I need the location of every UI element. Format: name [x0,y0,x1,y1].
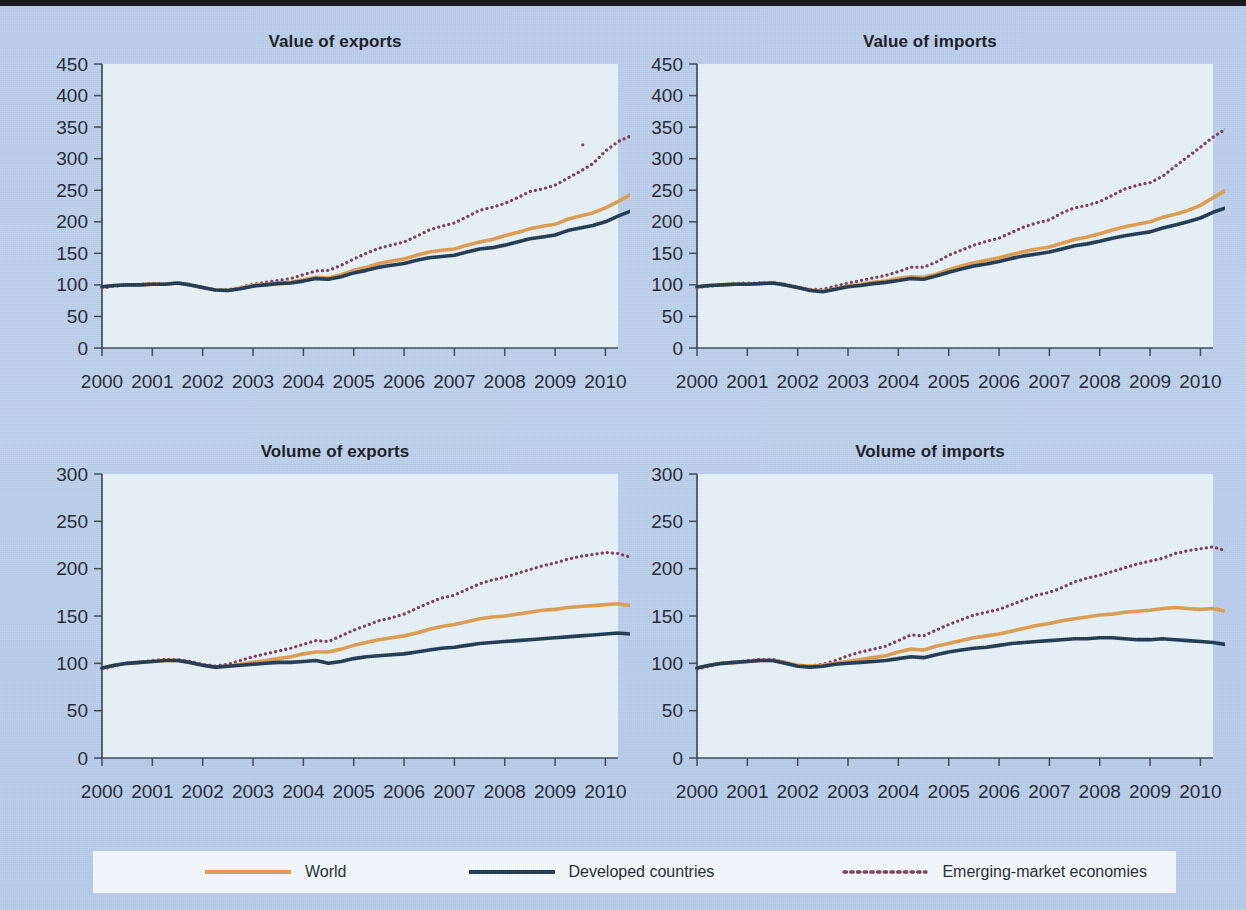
x-axis-tick-label: 2006 [978,371,1020,392]
y-axis-tick-label: 150 [651,243,683,264]
x-axis-tick-label: 2006 [978,781,1020,802]
y-axis-tick-label: 150 [651,606,683,627]
legend-label-emerging-market-economies: Emerging-market economies [942,863,1147,881]
y-axis-tick-label: 300 [651,148,683,169]
chart-plot-area: 0501001502002503003504004502000200120022… [635,54,1225,430]
y-axis-tick-label: 100 [56,653,88,674]
y-axis-tick-label: 300 [56,148,88,169]
x-axis-tick-label: 2010 [1179,781,1221,802]
y-axis-tick-label: 450 [56,54,88,75]
y-axis-tick-label: 400 [651,85,683,106]
chart-panel-value-of-exports: Value of exports 05010015020025030035040… [40,32,630,432]
x-axis-tick-label: 2004 [282,781,325,802]
x-axis-tick-label: 2000 [81,371,123,392]
y-axis-tick-label: 200 [56,558,88,579]
y-axis-tick-label: 250 [651,180,683,201]
chart-svg: 0501001502002503002000200120022003200420… [635,464,1225,836]
chart-plot-area: 0501001502002503003504004502000200120022… [40,54,630,430]
y-axis-tick-label: 0 [77,338,88,359]
y-axis-tick-label: 100 [56,274,88,295]
figure-container: Value of exports 05010015020025030035040… [0,0,1246,910]
chart-title: Volume of exports [40,442,630,462]
x-axis-tick-label: 2001 [131,371,173,392]
x-axis-tick-label: 2000 [676,371,718,392]
chart-title: Value of imports [635,32,1225,52]
y-axis-tick-label: 150 [56,243,88,264]
y-axis-tick-label: 0 [77,748,88,769]
chart-svg: 0501001502002503002000200120022003200420… [40,464,630,836]
x-axis-tick-label: 2008 [1079,781,1121,802]
plot-background [102,64,618,348]
x-axis-tick-label: 2001 [726,781,768,802]
chart-panel-volume-of-exports: Volume of exports 0501001502002503002000… [40,442,630,842]
x-axis-tick-label: 2005 [928,781,970,802]
y-axis-tick-label: 100 [651,653,683,674]
y-axis-tick-label: 100 [651,274,683,295]
y-axis-tick-label: 50 [662,700,683,721]
plot-background [697,64,1213,348]
chart-plot-area: 0501001502002503002000200120022003200420… [635,464,1225,840]
x-axis-tick-label: 2010 [584,781,626,802]
x-axis-tick-label: 2003 [827,781,869,802]
x-axis-tick-label: 2005 [928,371,970,392]
legend-item-emerging-market-economies: Emerging-market economies [842,863,1147,881]
x-axis-tick-label: 2007 [433,371,475,392]
y-axis-tick-label: 250 [651,511,683,532]
x-axis-tick-label: 2005 [333,781,375,802]
y-axis-tick-label: 300 [56,464,88,485]
y-axis-tick-label: 250 [56,511,88,532]
x-axis-tick-label: 2008 [1079,371,1121,392]
y-axis-tick-label: 200 [651,211,683,232]
legend-item-developed-countries: Developed countries [469,863,715,881]
chart-legend: World Developed countries Emerging-marke… [93,851,1176,893]
plot-background [697,474,1213,758]
x-axis-tick-label: 2009 [534,781,576,802]
y-axis-tick-label: 200 [651,558,683,579]
x-axis-tick-label: 2004 [282,371,325,392]
y-axis-tick-label: 350 [56,117,88,138]
x-axis-tick-label: 2010 [584,371,626,392]
x-axis-tick-label: 2005 [333,371,375,392]
y-axis-tick-label: 150 [56,606,88,627]
x-axis-tick-label: 2004 [877,371,920,392]
y-axis-tick-label: 350 [651,117,683,138]
y-axis-tick-label: 250 [56,180,88,201]
x-axis-tick-label: 2009 [1129,781,1171,802]
legend-label-developed-countries: Developed countries [569,863,715,881]
chart-panel-volume-of-imports: Volume of imports 0501001502002503002000… [635,442,1225,842]
chart-panel-value-of-imports: Value of imports 05010015020025030035040… [635,32,1225,432]
y-axis-tick-label: 50 [67,306,88,327]
x-axis-tick-label: 2008 [484,371,526,392]
x-axis-tick-label: 2003 [232,781,274,802]
x-axis-tick-label: 2002 [182,371,224,392]
legend-swatch-world [205,865,291,879]
x-axis-tick-label: 2010 [1179,371,1221,392]
x-axis-tick-label: 2000 [676,781,718,802]
x-axis-tick-label: 2003 [827,371,869,392]
y-axis-tick-label: 0 [672,748,683,769]
y-axis-tick-label: 300 [651,464,683,485]
x-axis-tick-label: 2008 [484,781,526,802]
y-axis-tick-label: 200 [56,211,88,232]
scan-artifact-dot [581,143,584,146]
chart-title: Volume of imports [635,442,1225,462]
x-axis-tick-label: 2002 [777,781,819,802]
chart-plot-area: 0501001502002503002000200120022003200420… [40,464,630,840]
x-axis-tick-label: 2002 [777,371,819,392]
chart-svg: 0501001502002503003504004502000200120022… [635,54,1225,426]
plot-background [102,474,618,758]
x-axis-tick-label: 2003 [232,371,274,392]
x-axis-tick-label: 2009 [1129,371,1171,392]
x-axis-tick-label: 2007 [433,781,475,802]
legend-swatch-emerging-market-economies [842,865,928,879]
chart-title: Value of exports [40,32,630,52]
x-axis-tick-label: 2007 [1028,371,1070,392]
y-axis-tick-label: 0 [672,338,683,359]
x-axis-tick-label: 2009 [534,371,576,392]
legend-swatch-developed-countries [469,865,555,879]
x-axis-tick-label: 2006 [383,371,425,392]
x-axis-tick-label: 2001 [131,781,173,802]
x-axis-tick-label: 2001 [726,371,768,392]
legend-label-world: World [305,863,347,881]
x-axis-tick-label: 2004 [877,781,920,802]
